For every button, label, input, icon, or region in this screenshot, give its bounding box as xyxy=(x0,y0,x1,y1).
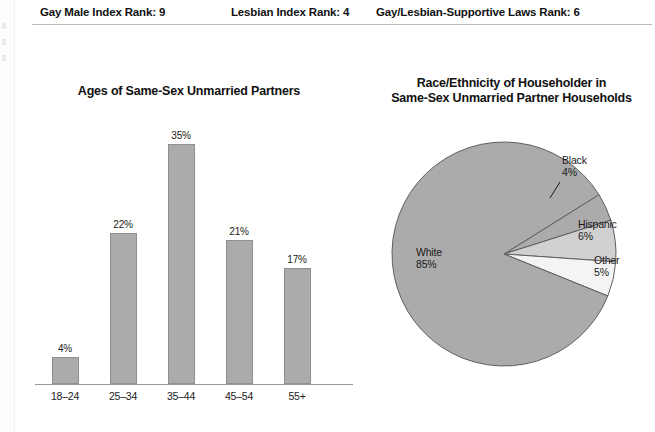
bar-chart: 4%22%35%21%17% 18–2425–3435–4445–5455+ xyxy=(32,110,357,405)
bar-x-axis-line xyxy=(35,384,353,385)
rank-supportive-laws: Gay/Lesbian-Supportive Laws Rank: 6 xyxy=(376,6,580,18)
bar-category-label: 45–54 xyxy=(211,390,267,402)
bar-value-label: 22% xyxy=(95,219,151,230)
pie-label-name: Black xyxy=(562,154,587,166)
bar-rect xyxy=(52,357,79,384)
pie-chart-title: Race/Ethnicity of Householder in Same-Se… xyxy=(368,76,655,106)
bar-value-label: 35% xyxy=(153,130,209,141)
pie-label-name: Other xyxy=(594,254,619,266)
bar-rect xyxy=(284,268,311,384)
pie-label-name: Hispanic xyxy=(578,218,617,230)
header-divider xyxy=(32,24,652,25)
pie-label-value: 5% xyxy=(594,266,619,278)
rank-header: Gay Male Index Rank: 9 Lesbian Index Ran… xyxy=(32,2,650,22)
pie-label-hispanic: Hispanic6% xyxy=(578,218,617,242)
bleed-digit-2: 3 xyxy=(1,54,6,63)
bar-column: 21% xyxy=(211,110,267,384)
page-canvas: 4 3 3 Gay Male Index Rank: 9 Lesbian Ind… xyxy=(0,0,655,432)
bleed-digit-0: 4 xyxy=(1,22,6,31)
pie-label-black: Black4% xyxy=(562,154,587,178)
pie-label-other: Other5% xyxy=(594,254,619,278)
pie-title-line-2: Same-Sex Unmarried Partner Households xyxy=(391,91,632,105)
bar-value-label: 17% xyxy=(269,254,325,265)
bar-column: 17% xyxy=(269,110,325,384)
bleed-digit-1: 3 xyxy=(1,38,6,47)
pie-label-value: 4% xyxy=(562,166,587,178)
pie-label-white: White85% xyxy=(416,246,442,270)
bar-column: 4% xyxy=(37,110,93,384)
pie-label-name: White xyxy=(416,246,442,258)
bar-column: 35% xyxy=(153,110,209,384)
bar-value-label: 4% xyxy=(37,343,93,354)
bar-plot-area: 4%22%35%21%17% xyxy=(32,110,357,384)
bar-value-label: 21% xyxy=(211,226,267,237)
rank-lesbian-index: Lesbian Index Rank: 4 xyxy=(231,6,349,18)
bar-chart-title: Ages of Same-Sex Unmarried Partners xyxy=(24,84,354,99)
bar-category-label: 18–24 xyxy=(37,390,93,402)
bar-rect xyxy=(168,144,195,384)
pie-label-value: 6% xyxy=(578,230,617,242)
page-edge-bleed: 4 3 3 xyxy=(0,0,15,432)
bar-category-label: 55+ xyxy=(269,390,325,402)
pie-chart: White85%Black4%Hispanic6%Other5% xyxy=(380,120,655,400)
bar-rect xyxy=(110,233,137,384)
bar-rect xyxy=(226,240,253,384)
bar-column: 22% xyxy=(95,110,151,384)
bar-category-label: 25–34 xyxy=(95,390,151,402)
pie-label-value: 85% xyxy=(416,258,442,270)
pie-title-line-1: Race/Ethnicity of Householder in xyxy=(417,76,606,90)
bar-category-label: 35–44 xyxy=(153,390,209,402)
rank-gay-male-index: Gay Male Index Rank: 9 xyxy=(40,6,165,18)
